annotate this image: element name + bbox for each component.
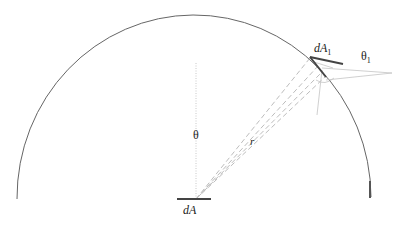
construction-lines <box>314 62 392 115</box>
r-label: r <box>250 135 255 147</box>
dA-label: dA <box>183 203 197 217</box>
dA1-label: dA1 <box>314 41 331 57</box>
ray-bundle <box>196 58 326 199</box>
hemisphere-diagram: dA dA1 θ1 θ r <box>0 0 407 225</box>
theta-label: θ <box>193 128 199 142</box>
theta1-label: θ1 <box>361 49 371 65</box>
